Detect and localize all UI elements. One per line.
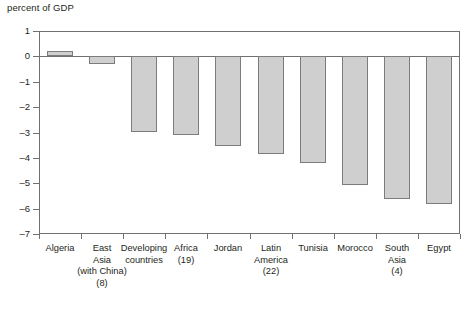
y-tick-label: –3 (0, 128, 30, 138)
y-tick-label: –4 (0, 153, 30, 163)
x-tick-mark (292, 234, 293, 239)
bar (258, 56, 284, 154)
y-axis: 10–1–2–3–4–5–6–7 (0, 0, 39, 311)
x-tick-mark (418, 234, 419, 239)
bar (215, 56, 241, 146)
x-category-label-line: Asia (372, 255, 422, 267)
bar (131, 56, 157, 132)
x-tick-mark (460, 234, 461, 239)
x-category-label-line: (8) (77, 278, 127, 290)
bar (89, 56, 115, 64)
bar (426, 56, 452, 204)
x-tick-mark (376, 234, 377, 239)
bar (47, 51, 73, 56)
x-tick-mark (250, 234, 251, 239)
y-tick-label: –1 (0, 77, 30, 87)
x-tick-mark (39, 234, 40, 239)
x-category-label-line: (22) (246, 266, 296, 278)
y-tick-label: –2 (0, 102, 30, 112)
x-tick-mark (123, 234, 124, 239)
y-tick-label: 1 (0, 26, 30, 36)
bar (300, 56, 326, 163)
x-tick-mark (207, 234, 208, 239)
y-tick-label: –5 (0, 178, 30, 188)
bar (173, 56, 199, 135)
x-category-label-line: Egypt (414, 243, 464, 255)
y-tick-label: 0 (0, 51, 30, 61)
x-tick-mark (165, 234, 166, 239)
x-tick-mark (334, 234, 335, 239)
bar (384, 56, 410, 199)
x-category-label-line: (19) (161, 255, 211, 267)
bar-chart-figure: percent of GDP 10–1–2–3–4–5–6–7 AlgeriaE… (0, 0, 467, 311)
x-category-label-line: America (246, 255, 296, 267)
x-category-label: Egypt (414, 243, 464, 255)
y-tick-label: –6 (0, 204, 30, 214)
x-category-label-line: (with China) (77, 266, 127, 278)
bar (342, 56, 368, 185)
x-tick-mark (81, 234, 82, 239)
y-tick-label: –7 (0, 229, 30, 239)
x-category-label-line: (4) (372, 266, 422, 278)
